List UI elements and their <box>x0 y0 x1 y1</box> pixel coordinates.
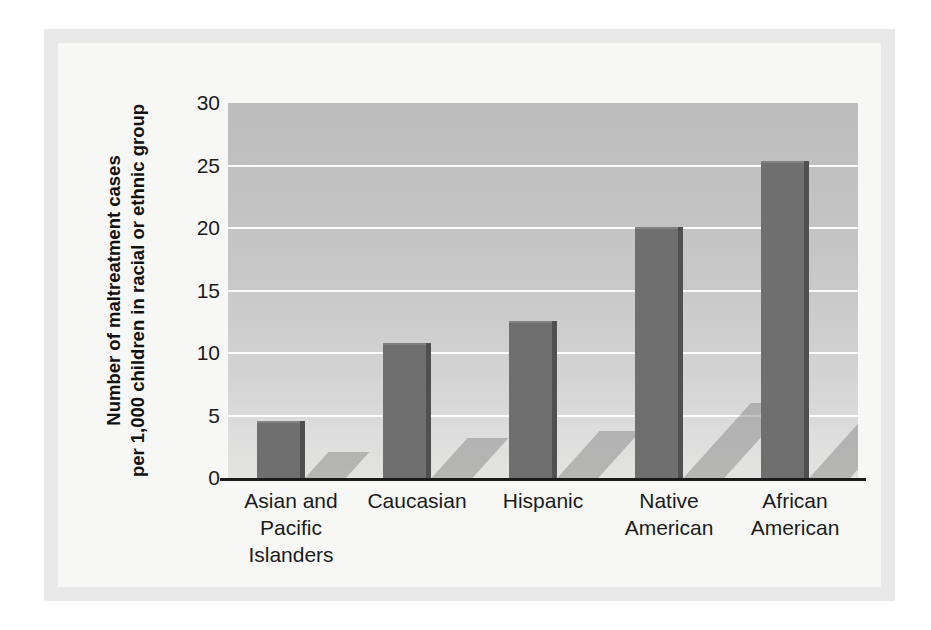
bar <box>761 161 809 479</box>
bar-shadow <box>557 431 640 478</box>
bar-shadow <box>305 452 369 478</box>
y-axis-tick-label: 10 <box>178 341 220 365</box>
bar-shadow <box>809 383 858 478</box>
y-axis-tick-label: 15 <box>178 279 220 303</box>
y-axis-title: Number of maltreatment cases per 1,000 c… <box>96 103 156 478</box>
plot-area <box>228 103 858 478</box>
x-axis-category-label: African American <box>732 488 858 588</box>
bar-shadow <box>431 438 508 479</box>
y-axis-title-line-1: Number of maltreatment cases <box>102 155 126 425</box>
y-axis-tick-label: 0 <box>178 466 220 490</box>
y-axis-title-line-2: per 1,000 children in racial or ethnic g… <box>126 104 150 477</box>
bar <box>509 321 557 479</box>
y-axis-tick-label: 25 <box>178 154 220 178</box>
bar <box>635 227 683 478</box>
bar-chart: 302520151050 Number of maltreatment case… <box>0 0 931 630</box>
y-axis-tick-label: 20 <box>178 216 220 240</box>
x-axis-category-label: Hispanic <box>480 488 606 588</box>
x-axis-line <box>220 478 866 481</box>
bar <box>257 421 305 479</box>
y-axis-tick-label: 30 <box>178 91 220 115</box>
x-axis-category-label: Caucasian <box>354 488 480 588</box>
x-axis-category-label: Asian and Pacific Islanders <box>228 488 354 588</box>
bar <box>383 343 431 478</box>
y-axis-tick-label: 5 <box>178 404 220 428</box>
y-axis-tick-labels: 302520151050 <box>168 0 220 630</box>
x-axis-category-label: Native American <box>606 488 732 588</box>
x-axis-category-labels: Asian and Pacific IslandersCaucasianHisp… <box>228 488 858 588</box>
